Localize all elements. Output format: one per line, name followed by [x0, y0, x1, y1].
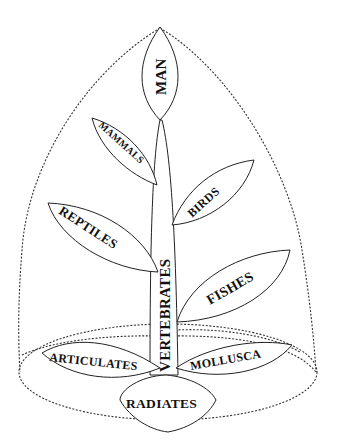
- label-radiates: RADIATES: [126, 396, 197, 411]
- label-man: MAN: [153, 58, 169, 95]
- diagram-canvas: MAN MAMMALS BIRDS REPTILES FISHES VERTEB…: [0, 0, 337, 448]
- outer-dotted-outline: [19, 28, 160, 372]
- label-vertebrates: VERTEBRATES: [157, 259, 173, 372]
